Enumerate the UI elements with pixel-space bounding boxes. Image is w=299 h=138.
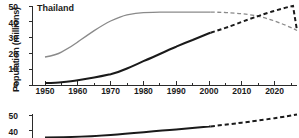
series-rural-projected	[211, 12, 297, 30]
x-tick-label: 2010	[232, 86, 251, 96]
x-tick-labels-thailand: 1950 1960 1970 1980 1990 2000 2010 2020	[0, 86, 299, 98]
x-tick-label: 2020	[265, 86, 284, 96]
x-axis-ticks	[45, 81, 291, 86]
series-rural-observed	[45, 12, 211, 57]
x-tick-label: 1960	[68, 86, 87, 96]
chart-panel-thailand: Population (millions) 50 40 30 20 10 0 T…	[0, 0, 299, 104]
plot-area-uk	[0, 104, 299, 138]
population-figure: Population (millions) 50 40 30 20 10 0 T…	[0, 0, 299, 138]
x-tick-label: 1980	[134, 86, 153, 96]
chart-panel-uk: 50 40 United Kingdom	[0, 104, 299, 138]
series-uk-projected	[211, 115, 297, 127]
series-urban-observed	[45, 33, 211, 83]
x-tick-label: 1990	[167, 86, 186, 96]
series-uk-observed	[45, 126, 211, 137]
x-tick-label: 1950	[36, 86, 55, 96]
y-axis-ticks	[29, 6, 33, 86]
y-axis-ticks-uk	[29, 115, 33, 131]
x-tick-label: 2000	[200, 86, 219, 96]
series-urban-projected	[211, 6, 297, 33]
x-tick-label: 1970	[101, 86, 120, 96]
